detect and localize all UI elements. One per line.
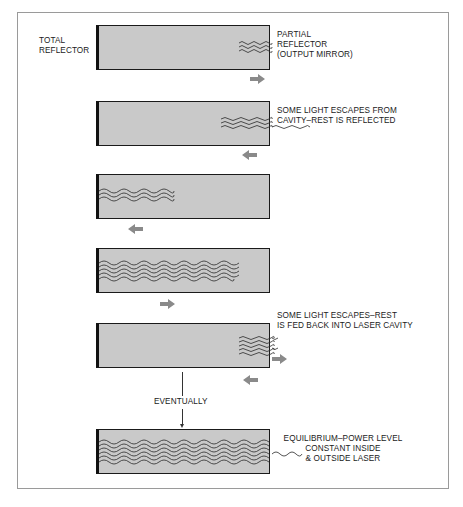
transition-line [182,409,183,425]
laser-cavity-stage-4 [96,248,270,293]
arrow-right-icon [160,299,175,309]
light-wave-icon [99,26,273,71]
stage-6-caption: EQUILIBRIUM–POWER LEVEL CONSTANT INSIDE … [283,434,403,464]
stage-2-caption: SOME LIGHT ESCAPES FROM CAVITY–REST IS R… [277,106,397,126]
laser-cavity-stage-6 [96,429,270,474]
light-wave-icon [99,249,273,294]
stage-5-caption: SOME LIGHT ESCAPES–REST IS FED BACK INTO… [277,311,413,331]
transition-line [182,372,183,396]
arrow-left-icon [242,150,257,160]
arrow-right-icon [250,74,265,84]
light-wave-icon [99,430,273,475]
arrow-left-icon [128,224,143,234]
arrow-right-icon [272,354,287,364]
laser-cavity-stage-3 [96,174,270,219]
light-wave-icon [99,324,273,369]
partial-reflector-label: PARTIAL REFLECTOR (OUTPUT MIRROR) [277,30,353,60]
laser-cavity-stage-1 [96,25,270,70]
light-wave-icon [99,175,273,220]
laser-cavity-stage-2 [96,101,270,146]
eventually-label: EVENTUALLY [154,397,208,407]
arrow-left-icon [243,375,258,385]
laser-cavity-stage-5 [96,323,270,368]
light-wave-icon [99,102,273,147]
total-reflector-label: TOTAL REFLECTOR [39,36,89,56]
